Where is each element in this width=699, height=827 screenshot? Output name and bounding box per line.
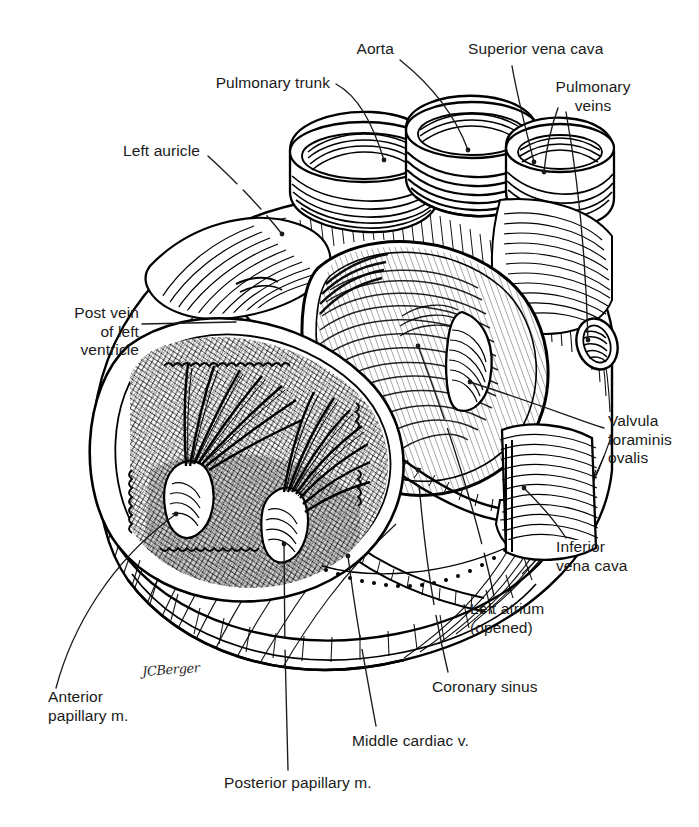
label-coronary-sinus: Coronary sinus — [432, 678, 612, 697]
label-inferior-vena-cava: Inferior vena cava — [556, 538, 696, 575]
label-middle-cardiac-vein: Middle cardiac v. — [352, 732, 552, 751]
label-aorta: Aorta — [284, 40, 394, 59]
label-superior-vena-cava: Superior vena cava — [468, 40, 698, 59]
label-left-auricle: Left auricle — [20, 142, 200, 161]
label-post-vein-of-left-ventricle: Post vein of left ventricle — [0, 304, 139, 360]
label-pulmonary-veins: Pulmonary veins — [528, 78, 658, 115]
label-left-atrium-opened: Left atrium (opened) — [470, 600, 620, 637]
label-anterior-papillary-muscle: Anterior papillary m. — [48, 688, 218, 725]
anatomical-plate: Pulmonary trunk Aorta Superior vena cava… — [0, 0, 699, 827]
label-valvula-foraminis-ovalis: Valvula foraminis ovalis — [608, 412, 699, 468]
label-pulmonary-trunk: Pulmonary trunk — [130, 74, 330, 93]
label-posterior-papillary-muscle: Posterior papillary m. — [224, 774, 474, 793]
